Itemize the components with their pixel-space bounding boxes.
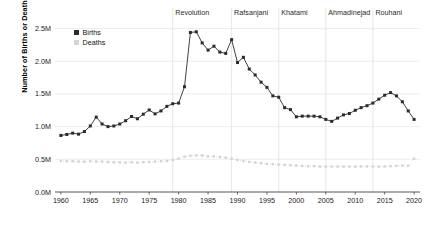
- era-label-khatami: Khatami: [281, 8, 307, 17]
- legend-label: Births: [83, 28, 101, 38]
- y-axis-tick-label: 2.5M: [17, 24, 51, 33]
- gridlines: [55, 29, 420, 160]
- x-axis-tick-label: 2005: [311, 196, 341, 205]
- x-axis-tick-label: 2000: [281, 196, 311, 205]
- x-axis-tick-label: 1995: [252, 196, 282, 205]
- y-axis-tick-label: 1.0M: [17, 122, 51, 131]
- series-deaths: [60, 154, 416, 168]
- x-axis-tick-label: 1975: [134, 196, 164, 205]
- x-axis-tick-label: 2015: [370, 196, 400, 205]
- x-axis-tick-label: 1970: [105, 196, 135, 205]
- legend-item-deaths: Deaths: [74, 38, 105, 48]
- y-axis-tick-label: 0.5M: [17, 155, 51, 164]
- chart-svg: [55, 22, 420, 192]
- legend-label: Deaths: [83, 38, 106, 48]
- x-axis-tick-label: 2020: [399, 196, 429, 205]
- chart-figure: Number of Births or Deaths 0.0M0.5M1.0M1…: [0, 0, 429, 227]
- x-axis-tick-label: 1960: [46, 196, 76, 205]
- chart-legend: BirthsDeaths: [74, 28, 105, 47]
- y-axis-tick-label: 1.5M: [17, 89, 51, 98]
- era-label-ahmadinejad: Ahmadinejad: [328, 8, 370, 17]
- series-births: [59, 30, 415, 137]
- x-axis-tick-label: 1980: [164, 196, 194, 205]
- era-label-rafsanjani: Rafsanjani: [234, 8, 268, 17]
- legend-swatch-deaths-icon: [74, 40, 79, 45]
- plot-area: [55, 22, 420, 192]
- legend-swatch-births-icon: [74, 30, 79, 35]
- x-axis-tick-label: 1965: [75, 196, 105, 205]
- y-axis-tick-label: 2.0M: [17, 57, 51, 66]
- x-axis-tick-label: 1985: [193, 196, 223, 205]
- era-label-rouhani: Rouhani: [375, 8, 402, 17]
- legend-item-births: Births: [74, 28, 105, 38]
- era-label-revolution: Revolution: [175, 8, 209, 17]
- x-axis-tick-label: 2010: [340, 196, 370, 205]
- x-axis-tick-label: 1990: [223, 196, 253, 205]
